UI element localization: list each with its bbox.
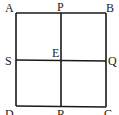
- label-s: S: [5, 54, 12, 68]
- label-e: E: [52, 46, 59, 60]
- label-b: B: [106, 1, 114, 15]
- label-p: P: [57, 0, 64, 14]
- label-q: Q: [108, 54, 117, 68]
- label-a: A: [5, 1, 14, 15]
- label-d: D: [5, 107, 14, 115]
- segment-sq: [16, 60, 106, 61]
- label-r: R: [57, 107, 65, 115]
- label-c: C: [104, 107, 112, 115]
- square-diagram: A P B S E Q D R C: [0, 0, 119, 115]
